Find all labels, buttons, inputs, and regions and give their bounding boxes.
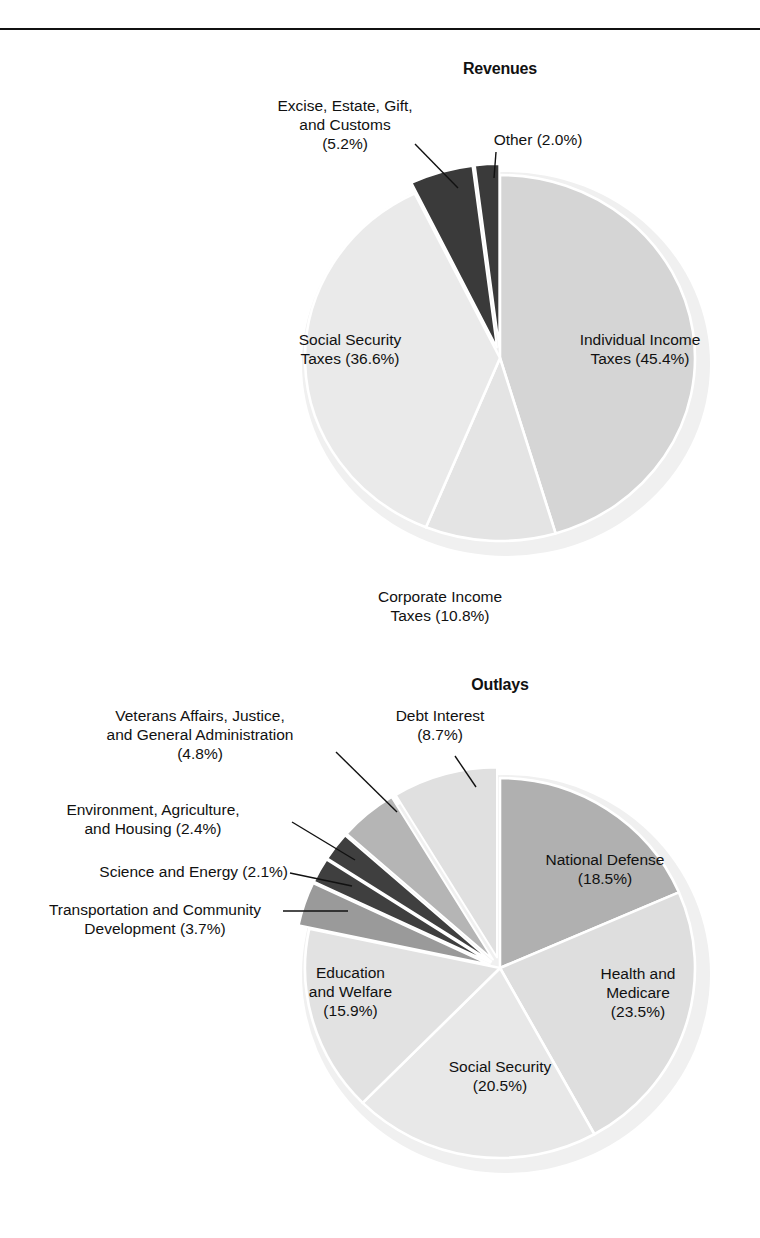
slice-label-transportation-and-community-development: Transportation and Community Development…: [10, 900, 300, 938]
figure-page: Revenues Individual Income Taxes (45.4%)…: [0, 0, 760, 1238]
slice-label-debt-interest: Debt Interest (8.7%): [350, 706, 530, 744]
slice-label-veterans-affairs-justice-general-administration: Veterans Affairs, Justice, and General A…: [55, 706, 345, 763]
slice-label-excise-estate-gift-customs: Excise, Estate, Gift, and Customs (5.2%): [230, 96, 460, 153]
top-divider-rule: [0, 28, 760, 30]
slice-label-other: Other (2.0%): [448, 130, 628, 149]
slice-label-national-defense: National Defense (18.5%): [500, 850, 710, 888]
slice-label-corporate-income-taxes: Corporate Income Taxes (10.8%): [330, 587, 550, 625]
slice-label-health-and-medicare: Health and Medicare (23.5%): [563, 964, 713, 1021]
slice-label-environment-agriculture-housing: Environment, Agriculture, and Housing (2…: [18, 800, 288, 838]
slice-label-social-security-taxes: Social Security Taxes (36.6%): [245, 330, 455, 368]
slice-label-education-and-welfare: Education and Welfare (15.9%): [268, 963, 433, 1020]
slice-label-science-and-energy: Science and Energy (2.1%): [18, 862, 288, 881]
slice-label-social-security: Social Security (20.5%): [400, 1057, 600, 1095]
leader-line-veterans-affairs-justice-general-administration: [336, 752, 397, 812]
slice-label-individual-income-taxes: Individual Income Taxes (45.4%): [535, 330, 745, 368]
